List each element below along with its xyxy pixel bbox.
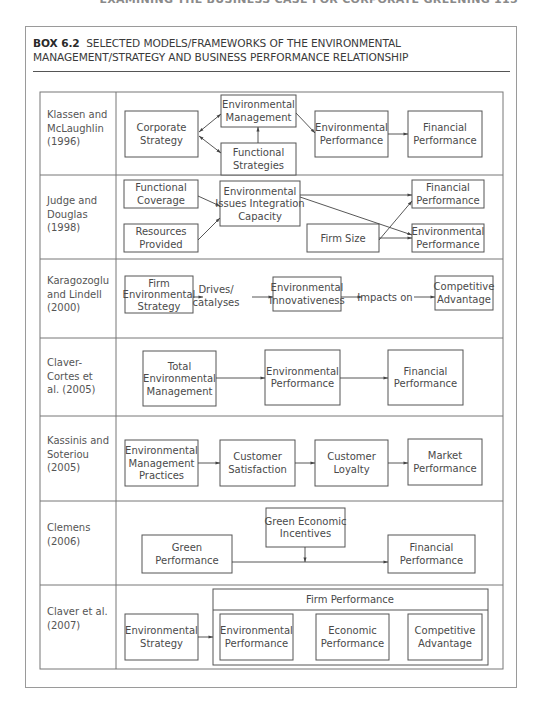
node-resources-provided: ResourcesProvided: [124, 224, 198, 252]
node-financial-performance-4: FinancialPerformance: [388, 535, 475, 573]
node-label: Environmental: [220, 625, 293, 636]
node-firm-env-strategy: FirmEnvironmentalStrategy: [123, 276, 196, 313]
node-label: Customer: [233, 451, 282, 462]
node-tem: TotalEnvironmentalManagement: [143, 351, 216, 406]
node-label: Management: [226, 112, 292, 123]
edge-label-drives: Drives/: [198, 284, 234, 295]
node-label: Performance: [321, 638, 384, 649]
node-corporate-strategy: CorporateStrategy: [125, 111, 198, 157]
author-line: McLaughlin: [47, 122, 115, 136]
node-label: Functional: [135, 182, 186, 193]
node-label: Firm: [148, 278, 169, 289]
edge-label-impacts: Impacts on: [357, 292, 412, 303]
node-label: Performance: [155, 555, 218, 566]
node-label: Strategies: [233, 160, 284, 171]
author-citation: Karagozogluand Lindell(2000): [47, 274, 115, 315]
node-customer-satisfaction: CustomerSatisfaction: [220, 440, 295, 486]
author-line: (2005): [47, 461, 115, 475]
node-label: Environmental: [412, 226, 485, 237]
group-label: Firm Performance: [306, 594, 394, 605]
author-line: (1998): [47, 221, 115, 235]
node-label: Green Economic: [265, 516, 347, 527]
node-label: Financial: [426, 182, 470, 193]
node-label: Provided: [139, 239, 182, 250]
author-line: al. (2005): [47, 383, 115, 397]
node-label: Loyalty: [333, 464, 369, 475]
node-label: Strategy: [140, 135, 183, 146]
author-line: (1996): [47, 135, 115, 149]
node-environmental-performance-5: EnvironmentalPerformance: [220, 614, 293, 660]
node-firm-size: Firm Size: [307, 224, 379, 252]
node-label: Issues Integration: [215, 198, 304, 209]
author-line: Claver et al.: [47, 605, 115, 619]
diagram-nodes: CorporateStrategyEnvironmentalManagement…: [123, 95, 495, 665]
node-label: Total: [167, 361, 191, 372]
node-label: Firm Size: [320, 233, 365, 244]
node-competitive-advantage: CompetitiveAdvantage: [434, 276, 495, 310]
node-competitive-advantage-2: CompetitiveAdvantage: [408, 614, 482, 660]
node-label: Coverage: [137, 195, 185, 206]
author-line: Soteriou: [47, 448, 115, 462]
node-financial-performance: FinancialPerformance: [408, 111, 482, 157]
node-financial-performance-3: FinancialPerformance: [388, 350, 463, 405]
node-label: Incentives: [280, 528, 331, 539]
node-label: Customer: [327, 451, 376, 462]
author-citation: Clemens(2006): [47, 521, 115, 548]
node-environmental-performance-3: EnvironmentalPerformance: [265, 350, 340, 405]
node-label: Corporate: [137, 122, 187, 133]
node-label: Resources: [135, 226, 186, 237]
node-label: Financial: [404, 366, 448, 377]
node-emp: EnvironmentalManagementPractices: [125, 440, 198, 486]
author-citation: Klassen andMcLaughlin(1996): [47, 108, 115, 149]
author-line: Karagozoglu: [47, 274, 115, 288]
author-line: Klassen and: [47, 108, 115, 122]
author-line: (2000): [47, 301, 115, 315]
node-label: Financial: [410, 542, 454, 553]
author-citation: Judge andDouglas(1998): [47, 194, 115, 235]
node-env-innovativeness: EnvironmentalInnovativeness: [269, 277, 344, 311]
author-citation: Kassinis andSoteriou(2005): [47, 434, 115, 475]
node-financial-performance-2: FinancialPerformance: [412, 180, 484, 208]
node-label: Performance: [400, 555, 463, 566]
author-line: (2006): [47, 535, 115, 549]
author-line: Claver-: [47, 356, 115, 370]
node-label: Performance: [320, 135, 383, 146]
node-green-performance: GreenPerformance: [142, 535, 232, 573]
node-label: Capacity: [238, 211, 282, 222]
node-label: Practices: [139, 470, 184, 481]
author-line: Clemens: [47, 521, 115, 535]
node-label: Green: [172, 542, 202, 553]
node-functional-coverage: FunctionalCoverage: [124, 180, 198, 208]
arrow: [199, 136, 221, 153]
node-customer-loyalty: CustomerLoyalty: [315, 440, 388, 486]
node-label: Management: [147, 386, 213, 397]
node-label: Environmental: [271, 282, 344, 293]
node-label: Performance: [413, 463, 476, 474]
node-label: Economic: [328, 625, 376, 636]
node-label: Environmental: [266, 366, 339, 377]
edge-label-drives: catalyses: [193, 297, 240, 308]
node-label: Environmental: [222, 99, 295, 110]
node-label: Environmental: [125, 625, 198, 636]
node-environmental-strategy: EnvironmentalStrategy: [125, 614, 198, 660]
node-green-incentives: Green EconomicIncentives: [265, 508, 347, 547]
node-label: Strategy: [140, 638, 183, 649]
node-label: Performance: [416, 195, 479, 206]
node-environmental-performance-2: EnvironmentalPerformance: [412, 224, 485, 252]
node-label: Competitive: [434, 281, 495, 292]
node-market-performance: MarketPerformance: [408, 439, 482, 485]
node-economic-performance: EconomicPerformance: [316, 614, 389, 660]
arrow: [296, 113, 315, 133]
author-citation: Claver et al.(2007): [47, 605, 115, 632]
node-label: Performance: [271, 378, 334, 389]
node-label: Strategy: [138, 301, 181, 312]
node-label: Performance: [225, 638, 288, 649]
node-label: Environmental: [143, 373, 216, 384]
node-label: Satisfaction: [228, 464, 287, 475]
node-label: Advantage: [418, 638, 472, 649]
node-label: Environmental: [123, 289, 196, 300]
node-label: Environmental: [125, 445, 198, 456]
node-label: Competitive: [415, 625, 476, 636]
node-label: Innovativeness: [269, 295, 344, 306]
arrow: [379, 201, 412, 240]
